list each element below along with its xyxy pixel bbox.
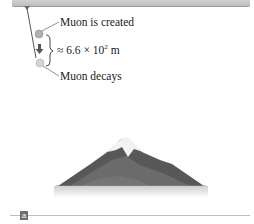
muon-trajectory-line bbox=[27, 8, 36, 58]
panel-label-badge: a bbox=[20, 211, 28, 220]
muon-decays-label: Muon decays bbox=[60, 70, 122, 82]
panel-divider-line bbox=[10, 215, 250, 216]
muon-created-label: Muon is created bbox=[60, 16, 134, 28]
distance-unit: m bbox=[108, 44, 120, 56]
created-leader-line bbox=[42, 22, 59, 31]
muon-created-particle-icon bbox=[35, 30, 43, 38]
curly-brace-icon bbox=[46, 35, 53, 66]
muon-decay-particle-icon bbox=[36, 59, 44, 67]
mountain-icon bbox=[56, 137, 206, 186]
mountain-base-shadow bbox=[54, 186, 208, 198]
distance-value: ≈ 6.6 × 10 bbox=[57, 44, 104, 56]
decay-leader-line bbox=[43, 66, 59, 76]
down-arrow-icon bbox=[36, 49, 44, 54]
distance-label: ≈ 6.6 × 102 m bbox=[57, 43, 120, 56]
